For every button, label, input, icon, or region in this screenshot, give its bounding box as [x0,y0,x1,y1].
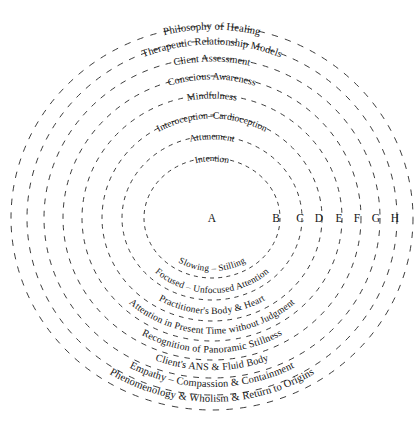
ring-2-top-label: Attunement [188,131,236,144]
zone-letter-g: G [372,212,380,224]
ring-6-top-label: Client Assessment [173,53,252,68]
ring-3-top-label: Interoception–Cardioception [155,110,270,134]
ring-4-top-label: Mindfulness [186,90,238,103]
rings-svg: IntentionSlowing – StillingAttunementFoc… [0,0,417,432]
zone-letter-h: H [391,212,399,224]
zone-letter-d: D [315,212,323,224]
ring-6-bottom-label: Client's ANS & Fluid Body [154,352,270,373]
concentric-rings-figure: IntentionSlowing – StillingAttunementFoc… [0,0,417,432]
ring-8-top-label: Philosophy of Healing [162,21,262,38]
ring-5-top-label: Conscious Awareness [167,71,258,88]
zone-letter-e: E [335,212,342,224]
ring-1-bottom-label: Slowing – Stilling [177,255,247,273]
zone-letter-b: B [272,212,280,224]
zone-letters-group: ABCDEFGH [208,212,399,224]
zone-letter-a: A [208,212,217,224]
zone-letter-f: F [354,212,360,224]
ring-3-bottom-label: Practitioner's Body & Heart [157,292,266,316]
ring-1-top-label: Intention [194,153,230,165]
ring-4-bottom-label: Attention in Present Time without Judgme… [127,296,297,336]
zone-letter-c: C [296,212,304,224]
